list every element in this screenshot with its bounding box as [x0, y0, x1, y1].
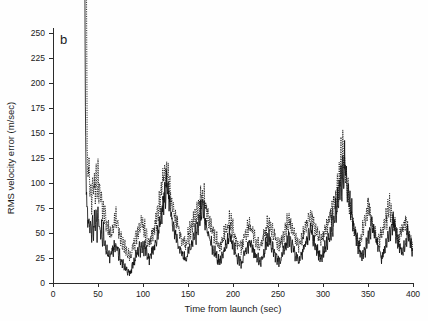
x-tick-label: 50 [93, 289, 103, 299]
x-tick-label: 250 [271, 289, 285, 299]
y-axis-title: RMS velocity error (m/sec) [5, 102, 16, 214]
x-tick-label: 400 [406, 289, 420, 299]
x-axis-ticks: 050100150200250300350400 [51, 283, 421, 299]
y-tick-label: 175 [31, 103, 45, 113]
x-tick-label: 150 [181, 289, 195, 299]
chart-canvas: 0255075100125150175200225250 05010015020… [0, 0, 428, 321]
y-tick-label: 250 [31, 28, 45, 38]
y-tick-label: 25 [36, 253, 46, 263]
x-tick-label: 100 [136, 289, 150, 299]
x-tick-label: 300 [316, 289, 330, 299]
y-tick-label: 0 [40, 278, 45, 288]
series-solid-trace [85, 0, 415, 276]
y-tick-label: 225 [31, 53, 45, 63]
y-axis-ticks: 0255075100125150175200225250 [31, 28, 53, 288]
y-tick-label: 75 [36, 203, 46, 213]
y-tick-label: 50 [36, 228, 46, 238]
y-tick-label: 125 [31, 153, 45, 163]
y-tick-label: 150 [31, 128, 45, 138]
series-dotted-trace [85, 0, 413, 261]
panel-label: b [60, 32, 67, 47]
data-area [85, 0, 415, 276]
y-tick-label: 200 [31, 78, 45, 88]
y-tick-label: 100 [31, 178, 45, 188]
x-tick-label: 200 [226, 289, 240, 299]
x-tick-label: 0 [51, 289, 56, 299]
x-axis-title: Time from launch (sec) [185, 303, 282, 314]
figure-container: 0255075100125150175200225250 05010015020… [0, 0, 428, 321]
x-tick-label: 350 [361, 289, 375, 299]
